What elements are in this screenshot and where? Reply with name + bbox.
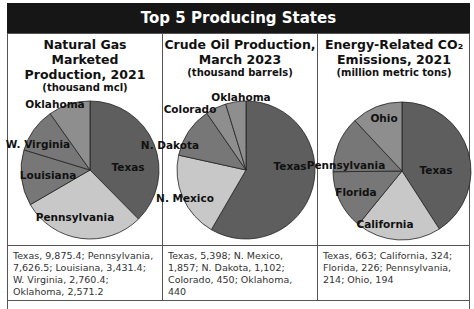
panel-description: Texas, 663; California, 324; Florida, 22…	[317, 246, 470, 300]
pie-label: Louisiana	[20, 169, 76, 181]
pie-label: Colorado	[164, 103, 217, 115]
pie-chart-2: TexasCaliforniaFloridaPennsylvaniaOhio	[307, 102, 471, 240]
pie-label: Pennsylvania	[307, 159, 386, 171]
pie-label: Texas	[112, 161, 145, 173]
pie-label: Ohio	[370, 112, 397, 124]
panel-description: Texas, 5,398; N. Mexico, 1,857; N. Dakot…	[162, 246, 317, 300]
pie-label: N. Dakota	[141, 139, 199, 151]
pie-label: California	[356, 218, 413, 230]
pie-chart-1: TexasN. MexicoN. DakotaColoradoOklahoma	[141, 91, 315, 239]
pie-label: Florida	[335, 186, 376, 198]
pie-label: Pennsylvania	[36, 211, 115, 223]
divider	[7, 300, 470, 301]
pie-label: Oklahoma	[25, 98, 84, 110]
pie-chart-0: TexasPennsylvaniaLouisianaW. VirginiaOkl…	[6, 98, 159, 239]
pie-label: Texas	[420, 164, 453, 176]
pie-label: Texas	[274, 160, 307, 172]
pie-label: N. Mexico	[156, 192, 214, 204]
pie-label: Oklahoma	[211, 91, 270, 103]
panel-description: Texas, 9,875.4; Pennsylvania, 7,626.5; L…	[8, 246, 162, 300]
pie-label: W. Virginia	[6, 138, 70, 150]
